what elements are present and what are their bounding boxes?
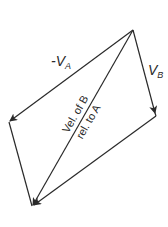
vector-diagram: -VA VB Vel. of B rel. to A <box>0 0 168 227</box>
vb-corner-stub <box>155 113 156 116</box>
left-edge-vector <box>9 122 32 206</box>
lower-right-edge-vector <box>34 116 156 205</box>
vb-label: VB <box>148 62 163 80</box>
neg-va-label: -VA <box>51 53 71 71</box>
